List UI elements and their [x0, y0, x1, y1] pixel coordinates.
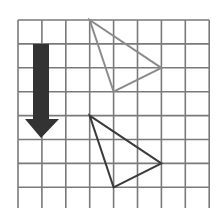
translation-diagram — [0, 0, 222, 208]
